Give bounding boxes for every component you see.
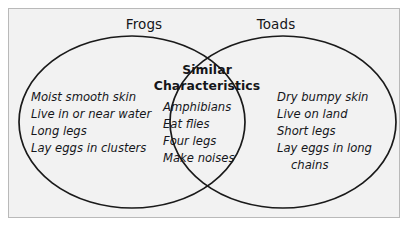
right-circle-items: Dry bumpy skin Live on land Short legs L… [277, 89, 372, 174]
list-item: Lay eggs in long [277, 140, 372, 157]
list-item: Lay eggs in clusters [31, 140, 151, 157]
intersection-heading-line1: Similar [148, 62, 266, 78]
intersection-block: Similar Characteristics Amphibians Eat f… [148, 62, 266, 167]
list-item: Four legs [163, 133, 266, 150]
list-item: Live in or near water [31, 106, 151, 123]
list-item: Make noises [163, 150, 266, 167]
venn-diagram-page: Frogs Toads Moist smooth skin Live in or… [0, 0, 415, 237]
intersection-heading: Similar Characteristics [148, 62, 266, 94]
intersection-heading-line2: Characteristics [148, 78, 266, 94]
intersection-items: Amphibians Eat flies Four legs Make nois… [148, 99, 266, 167]
list-item: Amphibians [163, 99, 266, 116]
list-item: Live on land [277, 106, 372, 123]
list-item: Moist smooth skin [31, 89, 151, 106]
list-item-continuation: chains [277, 157, 372, 174]
list-item: Long legs [31, 123, 151, 140]
left-circle-items: Moist smooth skin Live in or near water … [31, 89, 151, 157]
left-circle-title: Frogs [104, 16, 184, 32]
list-item: Dry bumpy skin [277, 89, 372, 106]
right-circle-title: Toads [236, 16, 316, 32]
list-item: Eat flies [163, 116, 266, 133]
list-item: Short legs [277, 123, 372, 140]
